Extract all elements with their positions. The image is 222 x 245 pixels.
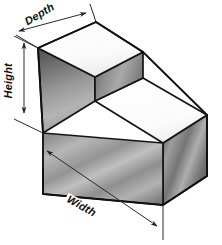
height-extension-line-bottom bbox=[14, 119, 43, 133]
height-label: Height bbox=[3, 61, 14, 100]
face-lower-left bbox=[43, 133, 163, 205]
stepped-block-solid bbox=[38, 22, 207, 205]
isometric-drawing-figure: Depth Height Width bbox=[0, 0, 222, 245]
drawing-canvas bbox=[0, 0, 222, 245]
height-extension-line-top bbox=[14, 36, 38, 48]
depth-extension-line-right bbox=[90, 4, 96, 22]
